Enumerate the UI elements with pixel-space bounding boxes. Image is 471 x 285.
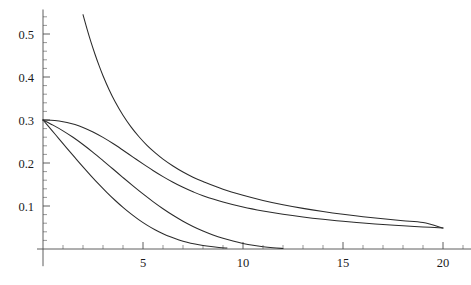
curve-curve-4-fast <box>43 120 227 248</box>
curve-curve-3-middle <box>43 120 283 248</box>
y-tick-label: 0.3 <box>18 114 34 128</box>
y-tick-label: 0.2 <box>18 157 34 171</box>
x-tick-label: 15 <box>337 256 350 270</box>
x-tick-label: 5 <box>140 256 146 270</box>
chart-figure: 51015200.10.20.30.40.5 <box>0 0 471 285</box>
x-tick-label: 10 <box>237 256 250 270</box>
curve-group <box>43 15 443 249</box>
x-tick-label: 20 <box>437 256 450 270</box>
line-chart: 51015200.10.20.30.40.5 <box>0 0 471 285</box>
y-tick-label: 0.5 <box>18 28 34 42</box>
curve-curve-2-broad-shoulder <box>43 120 443 228</box>
y-tick-label: 0.1 <box>18 200 34 214</box>
curve-curve-1-steep-tail <box>83 15 443 228</box>
major-tick-group <box>43 34 443 249</box>
minor-tick-group <box>43 17 463 249</box>
y-tick-label: 0.4 <box>18 71 34 85</box>
tick-label-group: 51015200.10.20.30.40.5 <box>18 28 449 271</box>
